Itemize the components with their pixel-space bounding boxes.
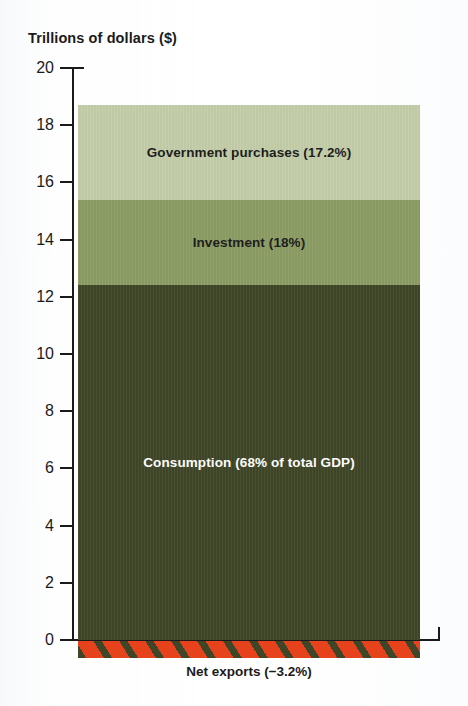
- y-axis-tick-mark: [60, 467, 72, 469]
- bar-segment-government-purchases[interactable]: Government purchases (17.2%): [78, 105, 420, 199]
- y-axis-tick-mark: [60, 410, 72, 412]
- bar-segment-investment[interactable]: Investment (18%): [78, 200, 420, 286]
- y-axis-tick-mark: [60, 353, 72, 355]
- y-axis-tick-label: 10: [8, 345, 54, 363]
- y-axis-tick-mark: [60, 124, 72, 126]
- y-axis-tick-mark: [60, 239, 72, 241]
- y-axis-tick-label: 2: [8, 574, 54, 592]
- y-axis-tick-mark: [60, 181, 72, 183]
- bar-segment-net-exports[interactable]: [78, 641, 420, 658]
- y-axis-line: [72, 67, 74, 641]
- y-axis-tick-label: 16: [8, 173, 54, 191]
- y-axis-tick-label: 0: [8, 631, 54, 649]
- y-axis-tick-mark: [60, 525, 72, 527]
- y-axis-tick-label: 8: [8, 402, 54, 420]
- y-axis-tick-label: 14: [8, 231, 54, 249]
- bar-segment-consumption-label: Consumption (68% of total GDP): [143, 455, 355, 470]
- y-axis-tick-label: 18: [8, 116, 54, 134]
- y-axis-tick-label: 4: [8, 517, 54, 535]
- chart-title: Trillions of dollars ($): [28, 30, 177, 46]
- bar-segment-investment-label: Investment (18%): [193, 235, 306, 250]
- gdp-stacked-bar: Consumption (68% of total GDP) Investmen…: [78, 68, 420, 640]
- y-axis-tick-label: 20: [8, 59, 54, 77]
- y-axis-tick-mark: [60, 582, 72, 584]
- bar-segment-net-exports-label: Net exports (−3.2%): [78, 664, 420, 679]
- y-axis-tick-mark: [60, 67, 72, 69]
- stacked-bar-chart: Trillions of dollars ($) 201816141210864…: [0, 0, 468, 706]
- x-axis-right-cap: [438, 627, 440, 641]
- bar-segment-government-purchases-label: Government purchases (17.2%): [147, 145, 352, 160]
- y-axis-tick-mark: [60, 296, 72, 298]
- y-axis-tick-label: 12: [8, 288, 54, 306]
- y-axis-tick-mark: [60, 639, 72, 641]
- bar-segment-consumption[interactable]: Consumption (68% of total GDP): [78, 285, 420, 640]
- y-axis-tick-label: 6: [8, 459, 54, 477]
